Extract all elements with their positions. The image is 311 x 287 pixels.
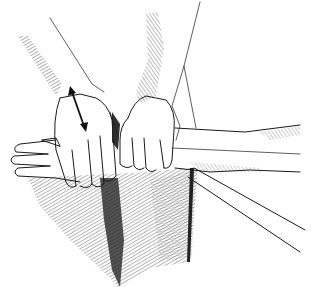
patient-forearm [175, 125, 300, 172]
motion-arrow-icon [68, 86, 88, 132]
patient-hand [11, 138, 80, 182]
clinician-right-hand [120, 96, 174, 172]
left-sleeve [18, 18, 104, 96]
surface-shading [28, 168, 198, 287]
right-sleeve [136, 2, 200, 140]
clinician-left-hand [55, 94, 120, 188]
illustration [0, 0, 311, 287]
